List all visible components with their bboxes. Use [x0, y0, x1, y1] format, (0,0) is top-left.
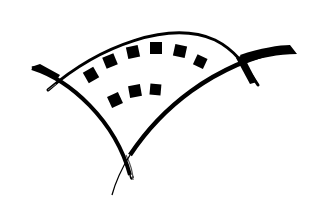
- right-arc-stroke: [130, 48, 290, 155]
- film-dot: [150, 42, 162, 54]
- film-dot: [102, 53, 118, 69]
- upper-arc-stroke: [48, 33, 258, 90]
- film-dot: [173, 44, 187, 58]
- film-dot: [149, 84, 161, 96]
- film-dot: [107, 92, 123, 108]
- film-dot: [126, 45, 140, 59]
- film-dot: [193, 54, 208, 69]
- film-strip-arc-logo-icon: [0, 0, 314, 211]
- film-dots-bottom-row: [107, 84, 161, 108]
- left-arc-stroke: [32, 68, 130, 175]
- right-arc-thick-end: [240, 45, 297, 63]
- film-dots-top-row: [83, 42, 208, 83]
- film-dot: [128, 84, 142, 98]
- film-dot: [83, 67, 99, 83]
